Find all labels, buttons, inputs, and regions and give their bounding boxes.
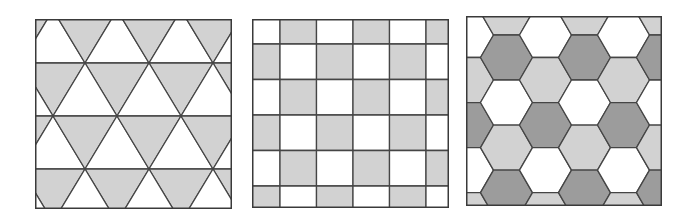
triangle-tiling-panel: Triangular tiling xyxy=(35,19,232,209)
square-cell xyxy=(317,44,354,80)
hexagon-tiling-panel: Hexagonal tiling xyxy=(466,16,662,206)
square-cell xyxy=(353,19,390,44)
square-cell xyxy=(390,151,427,187)
square-cell xyxy=(280,151,317,187)
square-cell xyxy=(426,151,449,187)
square-cell xyxy=(426,80,449,116)
square-cell xyxy=(390,80,427,116)
square-cell xyxy=(390,19,427,44)
square-cell xyxy=(252,151,280,187)
square-tiling-graphic xyxy=(252,19,449,208)
square-cell xyxy=(252,80,280,116)
square-cell xyxy=(317,151,354,187)
square-cell xyxy=(317,19,354,44)
square-cell xyxy=(390,186,427,208)
square-cell xyxy=(280,115,317,151)
square-cell xyxy=(353,80,390,116)
square-cell xyxy=(252,19,280,44)
square-cell xyxy=(252,115,280,151)
square-cell xyxy=(317,80,354,116)
square-cell xyxy=(280,19,317,44)
square-cell xyxy=(353,115,390,151)
triangle-tiling-graphic xyxy=(35,19,232,209)
square-cell xyxy=(353,186,390,208)
square-cell xyxy=(426,115,449,151)
square-cell xyxy=(317,186,354,208)
square-cell xyxy=(252,44,280,80)
square-cell xyxy=(353,44,390,80)
square-cell xyxy=(426,44,449,80)
square-cell xyxy=(426,186,449,208)
square-cell xyxy=(280,44,317,80)
square-cell xyxy=(390,44,427,80)
hexagon-tiling-graphic xyxy=(466,16,662,206)
square-cell xyxy=(426,19,449,44)
square-cell xyxy=(317,115,354,151)
square-tiling-panel: Square tiling xyxy=(252,19,449,208)
square-cell xyxy=(280,80,317,116)
square-cell xyxy=(353,151,390,187)
square-cell xyxy=(390,115,427,151)
square-cell xyxy=(280,186,317,208)
square-cell xyxy=(252,186,280,208)
